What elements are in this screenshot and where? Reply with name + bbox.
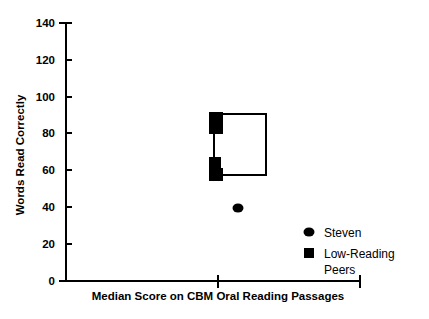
peer-marker-square-mid: [209, 157, 221, 169]
x-axis-title: Median Score on CBM Oral Reading Passage…: [92, 290, 344, 302]
peer-marker-square-low: [209, 168, 223, 181]
y-tick-label-0: 0: [49, 275, 55, 287]
legend-label-low-reading: Low-Reading: [324, 247, 395, 261]
y-tick-label-40: 40: [42, 201, 55, 213]
y-tick-label-100: 100: [36, 91, 55, 103]
legend-label-steven: Steven: [324, 226, 361, 240]
legend-square-icon: [304, 248, 314, 258]
chart-svg: 140 120 100 80 60 40 20 0 Words Read Cor…: [0, 0, 429, 319]
y-axis-title: Words Read Correctly: [14, 94, 26, 215]
y-tick-label-60: 60: [42, 164, 55, 176]
y-tick-label-80: 80: [42, 127, 55, 139]
y-tick-label-140: 140: [36, 17, 55, 29]
legend-label-peers: Peers: [324, 263, 355, 277]
y-tick-label-120: 120: [36, 54, 55, 66]
steven-data-point: [233, 204, 244, 213]
chart-figure: 140 120 100 80 60 40 20 0 Words Read Cor…: [0, 0, 429, 319]
legend-circle-icon: [304, 228, 315, 237]
peer-marker-square-high: [209, 112, 223, 134]
y-tick-label-20: 20: [42, 238, 55, 250]
